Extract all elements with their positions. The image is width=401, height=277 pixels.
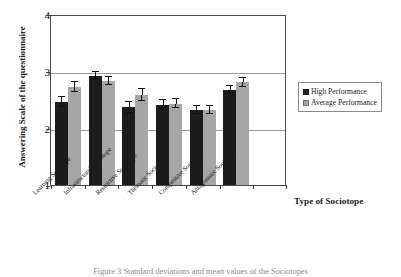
error-bar-cap (125, 101, 132, 102)
bar (156, 105, 169, 185)
x-tick-mark (118, 185, 119, 189)
error-bar-cap (193, 113, 200, 114)
error-bar (243, 78, 244, 83)
bar (236, 82, 249, 185)
legend-swatch-icon-high (303, 89, 309, 95)
bar-group (154, 16, 184, 185)
y-tick-mark-1 (46, 186, 50, 187)
error-bar-cap (71, 91, 78, 92)
legend: High Performance Average Performance (298, 82, 382, 112)
error-bar-cap (159, 108, 166, 109)
bar-group (53, 16, 83, 185)
bar (190, 110, 203, 185)
error-bar (196, 106, 197, 110)
bar-group (188, 16, 218, 185)
error-bar (209, 106, 210, 110)
x-tick-mark (286, 185, 287, 189)
error-bar-cap (193, 105, 200, 106)
bar-group (120, 16, 150, 185)
legend-label-average: Average Performance (311, 97, 377, 108)
error-bar-cap (138, 88, 145, 89)
error-bar-cap (58, 106, 65, 107)
bar (102, 81, 115, 185)
error-bar-cap (105, 84, 112, 85)
error-bar-cap (226, 85, 233, 86)
x-axis-title: Type of Sociotope (294, 196, 363, 206)
error-bar-cap (172, 107, 179, 108)
x-tick-mark (186, 185, 187, 189)
x-tick-mark (85, 185, 86, 189)
bar (169, 104, 182, 186)
error-bar-cap (226, 93, 233, 94)
figure-container: Answering Scale of the questionnaire 4 3… (0, 0, 401, 277)
error-bar (176, 99, 177, 104)
error-bar (129, 102, 130, 107)
error-bar-cap (138, 100, 145, 101)
error-bar (61, 97, 62, 102)
x-tick-mark (51, 185, 52, 189)
error-bar-cap (239, 86, 246, 87)
plot-area (50, 15, 286, 186)
legend-swatch-icon-average (303, 100, 309, 106)
bar-group (87, 16, 117, 185)
error-bar (230, 86, 231, 90)
error-bar-cap (58, 96, 65, 97)
bar (122, 107, 135, 185)
error-bar-cap (159, 99, 166, 100)
bar (55, 102, 68, 185)
bar (223, 90, 236, 185)
error-bar-cap (172, 98, 179, 99)
error-bar-cap (92, 71, 99, 72)
legend-item-high-performance: High Performance (303, 86, 377, 97)
bar-group (221, 16, 251, 185)
x-tick-mark (220, 185, 221, 189)
bar (203, 110, 216, 185)
legend-label-high: High Performance (311, 86, 367, 97)
error-bar-cap (125, 112, 132, 113)
error-bar (95, 72, 96, 76)
legend-item-average-performance: Average Performance (303, 97, 377, 108)
figure-caption: Figure 3 Standard deviations and mean va… (0, 267, 401, 276)
y-axis-ticks: 4 3 2 1 (26, 0, 50, 277)
error-bar-cap (105, 76, 112, 77)
error-bar (108, 77, 109, 81)
bar (135, 95, 148, 185)
error-bar (74, 82, 75, 87)
x-tick-mark (253, 185, 254, 189)
error-bar-cap (239, 77, 246, 78)
error-bar-cap (206, 113, 213, 114)
bar (68, 87, 81, 185)
x-tick-mark (152, 185, 153, 189)
error-bar (142, 89, 143, 95)
error-bar (163, 100, 164, 105)
error-bar-cap (206, 105, 213, 106)
bar (89, 76, 102, 185)
error-bar-cap (71, 81, 78, 82)
error-bar-cap (92, 79, 99, 80)
